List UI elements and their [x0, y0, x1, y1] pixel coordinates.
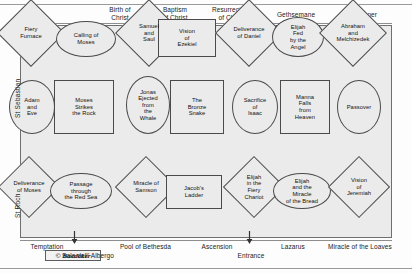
side-label-0: St Sebastian	[14, 79, 21, 118]
scene-label: MannaFallsfromHeaven	[295, 94, 315, 120]
scene-middle-row-2: JonasEjectedfromtheWhale	[126, 76, 170, 134]
diagram-canvas: Birth ofChristBaptismof ChristResurrecti…	[0, 0, 412, 273]
scene-label: Deliveranceof Moses	[12, 180, 45, 193]
bottom-caption-0: Temptation	[18, 243, 76, 251]
scene-lower-row-3: Jacob'sLadder	[166, 175, 222, 209]
scene-label: Passover	[347, 104, 372, 111]
scene-label: VisionofEzekiel	[177, 28, 196, 48]
scene-middle-row-4: SacrificeofIsaac	[232, 80, 278, 134]
scene-upper-row-5: ElijahFedby theAngel	[272, 17, 324, 57]
scene-middle-row-3: TheBronzeSnake	[170, 80, 224, 134]
entrance-arrow	[245, 231, 254, 245]
bottom-caption-2: Pool of Bethesda	[108, 243, 183, 251]
scene-label: Elijahin theFieryChariot	[243, 174, 264, 200]
scene-label: Elijahand theMiracleof the Bread	[286, 178, 318, 204]
scene-lower-row-6: VisionofJeremiah	[337, 165, 381, 209]
scene-label: Calling ofMoses	[74, 32, 99, 45]
scene-label: Miracle ofSamson	[132, 180, 160, 193]
scene-upper-row-6: AbrahamandMelchizedek	[329, 9, 377, 57]
tintoretto-ceiling-panel: FieryFurnaceCalling ofMosesSamuelandSaul…	[20, 25, 392, 238]
scene-label: AdamandEve	[24, 97, 39, 117]
scene-middle-row-6: Passover	[337, 80, 381, 134]
scene-label: AbrahamandMelchizedek	[336, 23, 371, 43]
side-label-1: St Roch	[14, 193, 21, 218]
scene-upper-row-4: Deliveranceof Daniel	[225, 9, 273, 57]
bottom-rule	[0, 268, 412, 269]
scene-middle-row-5: MannaFallsfromHeaven	[280, 80, 330, 134]
sala-albergo-arrow	[70, 231, 79, 245]
scene-upper-row-1: Calling ofMoses	[56, 21, 116, 57]
scene-label: SamuelandSaul	[138, 23, 160, 43]
scene-label: Passagethroughthe Red Sea	[65, 181, 98, 201]
bottom-caption-6: Miracle of the Loaves	[312, 243, 408, 251]
scene-label: FieryFurnace	[19, 26, 43, 39]
scene-lower-row-4: Elijahin theFieryChariot	[232, 165, 276, 209]
scene-label: ElijahFedby theAngel	[290, 24, 306, 50]
bottom-caption-1: Sala dell' Albergo	[48, 252, 128, 260]
scene-label: JonasEjectedfromtheWhale	[138, 89, 158, 122]
scene-label: VisionofJeremiah	[346, 177, 372, 197]
scene-upper-row-3: VisionofEzekiel	[158, 19, 216, 57]
scene-lower-row-5: Elijahand theMiracleof the Bread	[273, 173, 331, 209]
scene-lower-row-1: Passagethroughthe Red Sea	[50, 173, 112, 209]
scene-label: MosesStrikesthe Rock	[72, 97, 95, 117]
scene-label: TheBronzeSnake	[188, 97, 207, 117]
scene-lower-row-2: Miracle ofSamson	[124, 165, 168, 209]
scene-upper-row-0: FieryFurnace	[7, 9, 55, 57]
bottom-caption-5: Lazarus	[268, 243, 318, 251]
bottom-caption-4: Entrance	[224, 252, 278, 260]
scene-label: Deliveranceof Daniel	[232, 26, 265, 39]
bottom-caption-3: Ascension	[188, 243, 246, 251]
scene-label: SacrificeofIsaac	[244, 97, 267, 117]
scene-label: Jacob'sLadder	[184, 185, 204, 198]
scene-middle-row-1: MosesStrikesthe Rock	[54, 80, 114, 134]
